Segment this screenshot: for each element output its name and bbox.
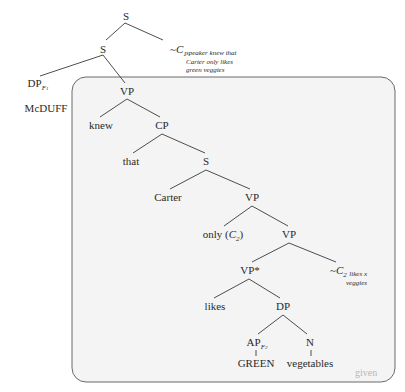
node-ap-f2: APF2 — [247, 336, 268, 354]
node-green: GREEN — [238, 357, 275, 369]
c1-note-line: Carter only likes — [186, 58, 237, 67]
given-label: given — [355, 367, 377, 378]
node-vp1: VP — [120, 85, 134, 97]
node-knew: knew — [89, 119, 113, 131]
node-vp2: VP — [245, 191, 259, 203]
node-dp-f1: DPF1 — [28, 77, 49, 95]
only-label: only ( — [203, 228, 229, 240]
edge-root-s — [106, 23, 125, 40]
only-close: ) — [240, 228, 244, 240]
c2-note-line: likes x — [346, 270, 367, 279]
dp-label: DP — [28, 77, 42, 89]
node-that: that — [123, 155, 140, 167]
c2-note: likes x veggies — [346, 270, 367, 287]
node-root-s: S — [123, 10, 129, 22]
node-vpstar: VP* — [240, 264, 260, 276]
node-carter: Carter — [154, 191, 181, 203]
f-subsub: 2 — [265, 345, 268, 350]
node-vp3: VP — [282, 228, 296, 240]
c1-note-line: green veggies — [186, 66, 237, 75]
node-c2: ~C2 — [330, 264, 347, 281]
c1-note-line: speaker knew that — [186, 49, 237, 58]
ap-label: AP — [247, 336, 261, 348]
node-dp: DP — [276, 300, 290, 312]
node-s2: S — [203, 155, 209, 167]
node-likes: likes — [205, 300, 226, 312]
c2-note-line: veggies — [346, 279, 367, 288]
node-c1: ~C1 — [170, 43, 187, 60]
node-s: S — [100, 43, 106, 55]
c1-note: speaker knew that Carter only likes gree… — [186, 49, 237, 75]
edge-s-dp — [40, 55, 103, 76]
node-n: N — [306, 336, 314, 348]
node-mcduff: McDUFF — [25, 102, 68, 114]
f-subsub: 1 — [46, 86, 49, 91]
node-cp: CP — [155, 119, 168, 131]
node-only: only (C2) — [203, 228, 244, 245]
node-vegetables: vegetables — [287, 357, 333, 369]
edge-root-c1 — [125, 23, 163, 40]
